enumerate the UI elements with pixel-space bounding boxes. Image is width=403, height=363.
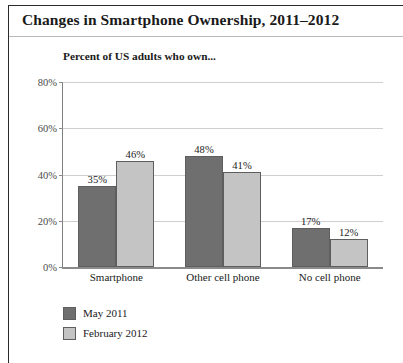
bar-value-label: 46%: [126, 149, 145, 160]
bar-group: 35%46%Smartphone: [78, 82, 154, 267]
legend-color-swatch: [63, 307, 76, 320]
legend-item-label: May 2011: [83, 307, 128, 319]
frame-left-border: [8, 5, 9, 363]
y-axis-tick-label: 40%: [38, 169, 57, 180]
bar[interactable]: 48%: [185, 156, 223, 267]
bar[interactable]: 41%: [223, 172, 261, 267]
bar-value-label: 17%: [301, 216, 320, 227]
y-axis-tick-label: 80%: [38, 77, 57, 88]
legend-color-swatch: [63, 327, 76, 340]
y-axis-tick-mark: [59, 128, 63, 129]
bar-group: 48%41%Other cell phone: [185, 82, 261, 267]
y-axis-tick-label: 0%: [43, 262, 57, 273]
y-axis-tick-label: 60%: [38, 123, 57, 134]
y-axis-tick-mark: [59, 82, 63, 83]
bar-value-label: 48%: [194, 144, 213, 155]
legend-item[interactable]: May 2011: [63, 303, 147, 323]
x-axis-category-label: No cell phone: [299, 271, 361, 283]
bar-value-label: 12%: [339, 227, 358, 238]
page-title: Changes in Smartphone Ownership, 2011–20…: [22, 11, 339, 29]
bar[interactable]: 46%: [116, 161, 154, 267]
y-axis-tick-mark: [59, 175, 63, 176]
legend-item-label: February 2012: [83, 327, 147, 339]
bar[interactable]: 12%: [330, 239, 368, 267]
plot-area: 0%20%40%60%80% 35%46%Smartphone48%41%Oth…: [63, 82, 383, 267]
bar-group: 17%12%No cell phone: [292, 82, 368, 267]
bar[interactable]: 35%: [78, 186, 116, 267]
bar-value-label: 35%: [88, 174, 107, 185]
x-axis-category-label: Smartphone: [90, 271, 143, 283]
title-divider: [9, 36, 403, 37]
y-axis-tick-label: 20%: [38, 215, 57, 226]
x-axis-line: [62, 267, 383, 269]
y-axis-tick-mark: [59, 267, 63, 268]
frame-top-border: [8, 5, 403, 6]
chart-legend: May 2011February 2012: [63, 303, 147, 343]
chart-subtitle: Percent of US adults who own...: [63, 50, 216, 62]
figure-container: Changes in Smartphone Ownership, 2011–20…: [0, 0, 403, 363]
legend-item[interactable]: February 2012: [63, 323, 147, 343]
x-axis-category-label: Other cell phone: [186, 271, 259, 283]
bar-value-label: 41%: [232, 160, 251, 171]
y-axis-tick-mark: [59, 221, 63, 222]
bar[interactable]: 17%: [292, 228, 330, 267]
